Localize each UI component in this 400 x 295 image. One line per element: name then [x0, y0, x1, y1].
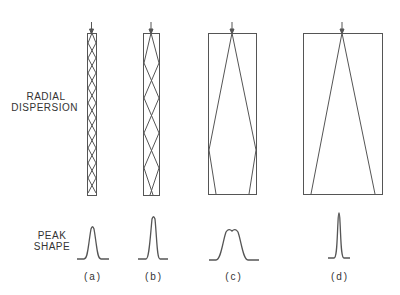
- radial-dispersion-label: RADIAL DISPERSION: [8, 91, 78, 113]
- peak-b: [138, 217, 168, 259]
- radial-line2: DISPERSION: [8, 102, 78, 113]
- peak-d: [328, 213, 350, 258]
- peak-line2: SHAPE: [30, 241, 74, 252]
- caption-b: (b): [134, 271, 174, 282]
- column-c: [209, 22, 257, 195]
- caption-c: (c): [214, 271, 254, 282]
- peak-a: [77, 227, 109, 259]
- column-d: [304, 22, 383, 195]
- peak-shape-label: PEAK SHAPE: [30, 230, 74, 252]
- column-b: [144, 22, 160, 196]
- peak-c: [209, 230, 259, 260]
- caption-d: (d): [320, 271, 360, 282]
- radial-line1: RADIAL: [8, 91, 78, 102]
- caption-a: (a): [73, 271, 113, 282]
- column-a: [88, 22, 97, 196]
- peak-line1: PEAK: [30, 230, 74, 241]
